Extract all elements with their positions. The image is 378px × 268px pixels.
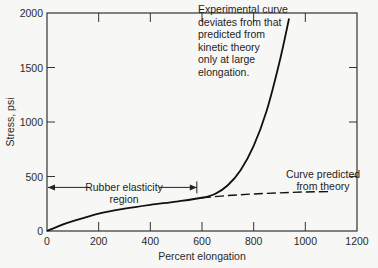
annotation-experimental-line: Experimental curve — [198, 3, 288, 15]
annotation-theory-line: Curve predicted — [286, 168, 360, 180]
theory-curve — [202, 192, 331, 198]
y-tick-label: 1000 — [20, 116, 44, 128]
annotation-experimental-line: deviates from that — [198, 16, 282, 28]
annotation-experimental-line: only at large — [198, 53, 255, 65]
y-tick-label: 2000 — [20, 7, 44, 19]
arrowhead-left-icon — [48, 184, 55, 190]
axis-ticks: 0200400600800100012000500100015002000 — [20, 7, 369, 247]
y-tick-label: 500 — [25, 171, 43, 183]
x-tick-label: 600 — [193, 235, 211, 247]
y-tick-label: 1500 — [20, 62, 44, 74]
arrowhead-right-icon — [190, 184, 197, 190]
x-tick-label: 200 — [90, 235, 108, 247]
x-tick-label: 1200 — [345, 235, 369, 247]
y-tick-label: 0 — [37, 225, 43, 237]
annotation-experimental-line: predicted from — [198, 28, 265, 40]
x-tick-label: 400 — [142, 235, 160, 247]
stress-elongation-chart: 0200400600800100012000500100015002000 Ex… — [0, 0, 378, 268]
annotations: Experimental curvedeviates from thatpred… — [48, 3, 360, 205]
annotation-experimental-line: kinetic theory — [198, 41, 261, 53]
annotation-experimental-line: elongation. — [198, 66, 249, 78]
y-axis-label: Stress, psi — [4, 97, 16, 146]
annotation-rubber-line: Rubber elasticity — [85, 181, 163, 193]
x-tick-label: 1000 — [294, 235, 318, 247]
x-tick-label: 0 — [44, 235, 50, 247]
x-axis-label: Percent elongation — [158, 250, 246, 262]
annotation-theory-line: from theory — [296, 180, 350, 192]
data-series — [47, 18, 331, 231]
x-tick-label: 800 — [245, 235, 263, 247]
annotation-rubber-line: region — [109, 193, 138, 205]
